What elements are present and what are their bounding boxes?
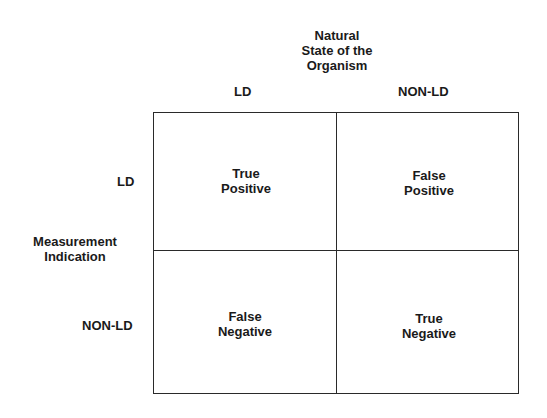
cell-false-negative: False Negative — [185, 309, 305, 339]
row-axis-title: Measurement Indication — [23, 234, 127, 264]
grid-horizontal-divider — [153, 250, 519, 251]
cell-text-line: Negative — [369, 326, 489, 341]
row-axis-title-line-1: Measurement — [23, 234, 127, 249]
row-label-ld: LD — [117, 174, 134, 189]
cell-text-line: Negative — [185, 324, 305, 339]
cell-text-line: Positive — [186, 181, 306, 196]
cell-text-line: False — [185, 309, 305, 324]
column-axis-title-line-1: Natural — [287, 28, 387, 43]
column-label-non-ld: NON-LD — [398, 84, 449, 99]
cell-text-line: False — [369, 168, 489, 183]
cell-false-positive: False Positive — [369, 168, 489, 198]
cell-true-positive: True Positive — [186, 166, 306, 196]
cell-true-negative: True Negative — [369, 311, 489, 341]
cell-text-line: True — [186, 166, 306, 181]
row-axis-title-line-2: Indication — [23, 249, 127, 264]
cell-text-line: Positive — [369, 183, 489, 198]
column-label-ld: LD — [234, 84, 251, 99]
column-axis-title-line-3: Organism — [287, 58, 387, 73]
cell-text-line: True — [369, 311, 489, 326]
grid-vertical-divider — [336, 112, 337, 394]
column-axis-title: Natural State of the Organism — [287, 28, 387, 73]
row-label-non-ld: NON-LD — [82, 318, 133, 333]
column-axis-title-line-2: State of the — [287, 43, 387, 58]
